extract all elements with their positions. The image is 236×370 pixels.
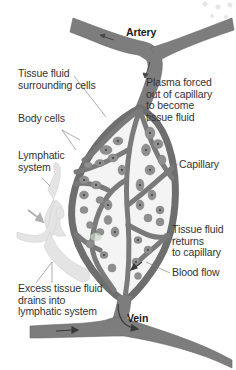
label-body-cells: Body cells [18,113,65,125]
label-capillary: Capillary [179,159,219,171]
label-vein: Vein [127,313,148,325]
label-tissue-fluid-surrounding: Tissue fluid surrounding cells [18,68,96,91]
label-plasma-forced: Plasma forced out of capillary to become… [146,77,212,123]
label-tissue-fluid-returns: Tissue fluid returns to capillary [172,224,224,259]
lymph-flow-arrow [28,210,43,222]
label-excess-fluid: Excess tissue fluid drains into lymphati… [18,283,102,318]
decorative-dots [203,2,233,20]
label-artery: Artery [126,27,156,39]
label-blood-flow: Blood flow [172,267,219,279]
label-lymphatic-system: Lymphatic system [18,150,65,173]
